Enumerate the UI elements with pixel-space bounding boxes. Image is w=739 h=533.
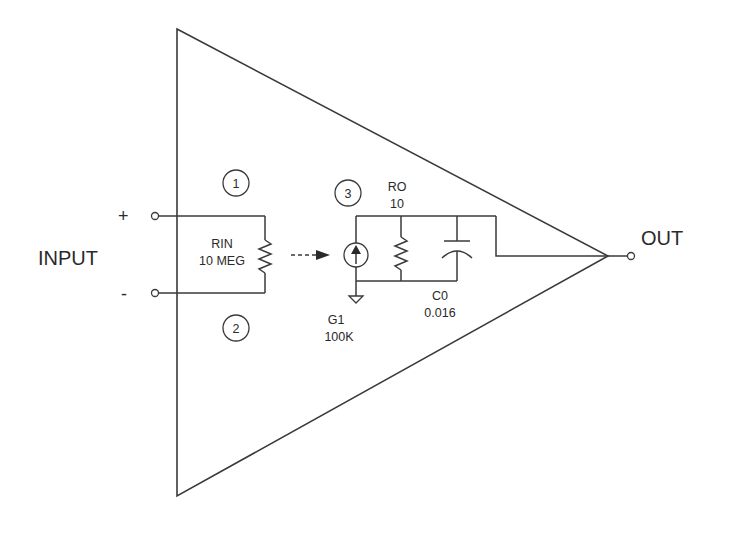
g1-value: 100K — [324, 330, 354, 344]
minus-sign: - — [121, 284, 127, 304]
rin-name: RIN — [211, 237, 233, 251]
node-2-marker: 2 — [223, 315, 249, 341]
rin-value: 10 MEG — [199, 254, 245, 268]
plus-sign: + — [118, 206, 129, 226]
node-3-marker: 3 — [335, 180, 361, 206]
g1-name: G1 — [328, 313, 345, 327]
node-1-label: 1 — [233, 177, 240, 191]
c0-name: C0 — [432, 289, 448, 303]
node-3-label: 3 — [345, 187, 352, 201]
node-1-marker: 1 — [223, 170, 249, 196]
output-terminal — [628, 253, 635, 260]
control-arrow-head-icon — [316, 250, 330, 260]
output-wire — [496, 216, 627, 256]
input-label: INPUT — [38, 247, 98, 269]
ro-resistor-icon — [395, 237, 407, 270]
rin-resistor-icon — [259, 240, 271, 273]
ro-value: 10 — [390, 197, 404, 211]
output-label: OUT — [641, 227, 683, 249]
ro-name: RO — [388, 180, 407, 194]
c0-value: 0.016 — [424, 306, 455, 320]
op-amp-model-diagram: INPUT + - RIN 10 MEG 1 2 3 G1 100K RO — [0, 0, 739, 533]
node-2-label: 2 — [233, 322, 240, 336]
minus-input-terminal — [152, 290, 159, 297]
ground-icon — [349, 296, 363, 303]
plus-input-terminal — [152, 213, 159, 220]
